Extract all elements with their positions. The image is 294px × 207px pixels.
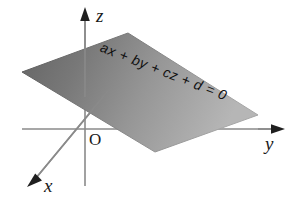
origin-label: O xyxy=(89,131,101,148)
y-axis-label: y xyxy=(265,134,273,153)
z-axis-arrow-icon xyxy=(80,7,90,21)
y-axis-arrow-icon xyxy=(271,124,285,134)
x-axis-arrow-icon xyxy=(27,174,42,188)
plane-equation-diagram: z y x O ax + by + cz + d = 0 xyxy=(0,0,294,207)
z-axis-label: z xyxy=(96,6,103,25)
x-axis-label: x xyxy=(44,176,52,195)
